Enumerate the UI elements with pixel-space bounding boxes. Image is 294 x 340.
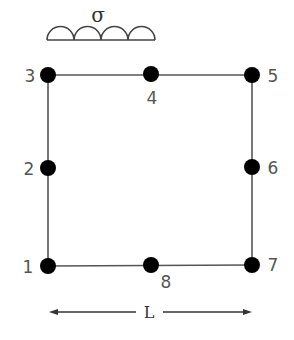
load-symbol-label: σ [91,3,105,27]
node-label-4: 4 [147,88,158,108]
distributed-load-icon [47,27,155,40]
node-label-8: 8 [161,272,172,292]
node-8 [143,257,159,273]
dimension-label: L [144,303,155,322]
node-1 [40,258,56,274]
node-label-1: 1 [23,257,34,277]
node-2 [40,160,56,176]
node-label-3: 3 [25,66,36,86]
node-label-5: 5 [268,66,279,86]
node-7 [244,257,260,273]
node-label-6: 6 [268,158,279,178]
element-diagram: σ 3 4 5 2 6 1 8 7 L [0,0,294,340]
node-4 [143,66,159,82]
node-3 [40,67,56,83]
node-6 [244,159,260,175]
node-label-2: 2 [24,159,35,179]
node-5 [244,67,260,83]
node-label-7: 7 [268,255,279,275]
